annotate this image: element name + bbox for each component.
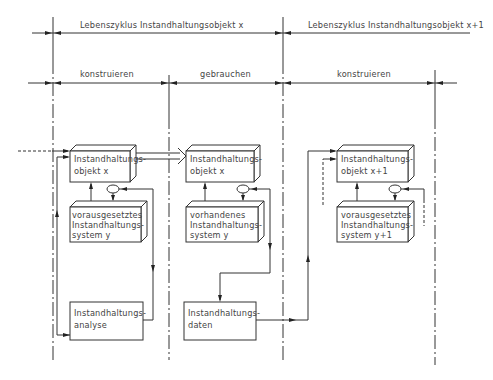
box-object-x1: Instandhaltungs- objekt x+1 [337,145,414,182]
arrow-icon [436,81,443,85]
arrow-icon [284,81,291,85]
arrow-icon [55,210,59,217]
arrow-icon [427,81,434,85]
arrow-icon [54,31,61,35]
svg-text:Instandhaltungs-: Instandhaltungs- [74,154,146,164]
arrow-icon [63,149,70,153]
svg-text:Instandhaltungs-: Instandhaltungs- [341,154,413,164]
arrow-icon [275,31,282,35]
box-analysis: Instandhaltungs- analyse [70,302,146,340]
svg-text:vorausgesetztes: vorausgesetztes [341,210,411,220]
phase-label-construct-2: konstruieren [337,69,391,79]
arrow-icon [241,195,245,201]
arrow-icon [54,81,61,85]
arrow-icon [170,81,177,85]
arrow-icon [45,81,52,85]
box-data: Instandhaltungs- daten [184,302,260,340]
box-system-y-existing: vorhandenes Instandhaltungs- system y [186,201,264,242]
lifecycle-label-x1: Lebenszyklus Instandhaltungsobjekt x+1 [308,20,484,30]
svg-text:system y: system y [72,230,111,240]
lifecycle-header: Lebenszyklus Instandhaltungsobjekt x Leb… [32,20,484,35]
arrow-icon [63,155,70,159]
arrow-icon [403,187,409,191]
arrow-icon [306,255,310,262]
arrow-icon [203,182,207,189]
arrow-icon [251,187,257,191]
arrow-icon [289,318,296,322]
box-system-y-required: vorausgesetztes Instandhaltungs- system … [70,201,147,242]
svg-text:Instandhaltungs-: Instandhaltungs- [72,220,144,230]
arrow-icon [218,295,222,302]
arrow-icon [268,243,272,250]
arrow-icon [330,157,337,161]
arrow-icon [284,31,291,35]
svg-text:Instandhaltungs-: Instandhaltungs- [341,220,413,230]
lifecycle-label-x: Lebenszyklus Instandhaltungsobjekt x [80,20,244,30]
svg-text:Instandhaltungs-: Instandhaltungs- [74,308,146,318]
link-node-icon [389,185,401,193]
svg-text:vorausgesetztes: vorausgesetztes [72,210,142,220]
link-node-icon [107,185,119,193]
maintenance-lifecycle-diagram: Lebenszyklus Instandhaltungsobjekt x Leb… [0,0,493,380]
arrow-icon [121,187,127,191]
arrow-icon [393,195,397,201]
svg-text:objekt x: objekt x [190,166,225,176]
svg-text:Instandhaltungs-: Instandhaltungs- [190,220,262,230]
svg-text:analyse: analyse [74,320,107,330]
arrow-icon [89,182,93,189]
box-object-x-construct: Instandhaltungs- objekt x [70,145,146,182]
arrow-icon [161,81,168,85]
arrow-icon [330,149,337,153]
arrow-icon [111,195,115,201]
svg-text:daten: daten [188,320,213,330]
arrow-icon [151,265,155,272]
svg-text:objekt x+1: objekt x+1 [341,166,388,176]
arrow-icon [355,182,359,189]
arrow-icon [45,31,52,35]
svg-text:system y+1: system y+1 [341,230,392,240]
svg-text:system y: system y [190,230,229,240]
svg-text:vorhandenes: vorhandenes [190,210,245,220]
box-object-x-use: Instandhaltungs- objekt x [186,145,262,182]
phase-header: konstruieren gebrauchen konstruieren [28,69,457,85]
phase-label-construct-1: konstruieren [80,69,134,79]
arrow-icon [63,333,70,337]
link-node-icon [237,185,249,193]
phase-label-use: gebrauchen [200,69,251,79]
svg-text:objekt x: objekt x [74,166,109,176]
svg-text:Instandhaltungs-: Instandhaltungs- [188,308,260,318]
box-system-y1-required: vorausgesetztes Instandhaltungs- system … [337,201,414,242]
svg-text:Instandhaltungs-: Instandhaltungs- [190,154,262,164]
arrow-icon [275,81,282,85]
